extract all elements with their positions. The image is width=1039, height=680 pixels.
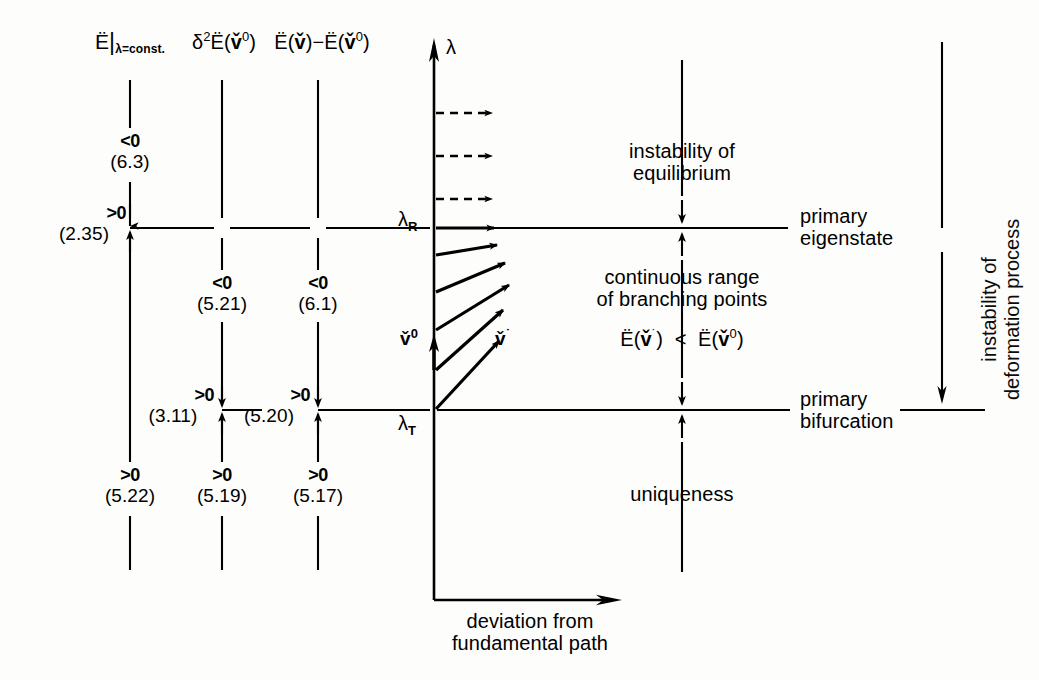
column2-below-T-value: >0 (5.19): [197, 465, 247, 506]
column2-mid-value: <0 (5.21): [197, 273, 247, 314]
column2-at-T-value: >0 (3.11): [128, 385, 218, 426]
column1-above-R-ref: (6.3): [110, 151, 150, 172]
lambda-axis: [429, 38, 439, 600]
instability-line2: equilibrium: [629, 162, 735, 184]
primary-bifurcation-line1: primary: [800, 388, 893, 410]
continuous-range-line2: of branching points: [597, 288, 768, 310]
deformation-process-line1: instability of: [978, 219, 1001, 400]
column2-header: δ2Ë(v̌0): [192, 30, 256, 53]
column1-above-R-sign: <0: [110, 131, 150, 151]
column3-mid-value: <0 (6.1): [298, 273, 338, 314]
lambda-axis-label: λ: [446, 36, 456, 58]
column3-below-T-ref: (5.17): [293, 485, 343, 506]
column3-at-T-sign: >0: [224, 385, 314, 405]
column1-below-T-sign: >0: [105, 465, 155, 485]
column3-mid-sign: <0: [298, 273, 338, 293]
v-dot-label: v̌˙: [495, 327, 510, 350]
bifurcation-diagram: Ë|λ=const. δ2Ë(v̌0) Ë(v̌)−Ë(v̌0) <0 …: [0, 0, 1039, 680]
column2-mid-sign: <0: [197, 273, 247, 293]
primary-bifurcation-line2: bifurcation: [800, 410, 893, 432]
column1-below-T-ref: (5.22): [105, 485, 155, 506]
instability-of-deformation-process-label: instability of deformation process: [978, 219, 1024, 400]
column1-header: Ë|λ=const.: [95, 30, 165, 56]
column2-at-T-sign: >0: [128, 385, 218, 405]
column1-below-T-value: >0 (5.22): [105, 465, 155, 506]
uniqueness-label: uniqueness: [630, 483, 733, 505]
deviation-caption-line2: fundamental path: [452, 632, 608, 654]
diagram-vector-layer: [0, 0, 1039, 680]
v-zero-superscript: 0: [411, 326, 418, 341]
instability-line1: instability of: [629, 140, 735, 162]
lambda-R-symbol: λ: [398, 208, 408, 230]
lambda-R-subscript: R: [408, 219, 418, 234]
primary-eigenstate-line1: primary: [800, 205, 893, 227]
deformation-process-line2: deformation process: [1001, 219, 1024, 400]
column3-at-T-value: >0 (5.20): [224, 385, 314, 426]
v-zero-label: v̌0: [400, 327, 418, 350]
v-dot-symbol: v̌: [495, 328, 506, 349]
primary-bifurcation-label: primary bifurcation: [800, 388, 893, 433]
primary-eigenstate-line2: eigenstate: [800, 227, 893, 249]
column2-at-T-ref: (3.11): [128, 405, 218, 426]
column1-at-R-ref: (2.35): [36, 223, 132, 244]
lambda-T-tick-label: λT: [398, 412, 416, 439]
v-dot-superscript: ˙: [506, 326, 510, 341]
column2-mid-ref: (5.21): [197, 293, 247, 314]
column1-above-R-value: <0 (6.3): [110, 131, 150, 172]
column1-at-R-value: >0 (2.35): [36, 203, 132, 244]
column2-below-T-ref: (5.19): [197, 485, 247, 506]
column3-below-T-sign: >0: [293, 465, 343, 485]
deviation-axis-caption: deviation from fundamental path: [452, 610, 608, 655]
column1-at-R-sign: >0: [36, 203, 132, 223]
deviation-caption-line1: deviation from: [452, 610, 608, 632]
lambda-T-symbol: λ: [398, 412, 408, 434]
v-zero-symbol: v̌: [400, 328, 411, 349]
column3-header: Ë(v̌)−Ë(v̌0): [274, 30, 370, 53]
energy-inequality: Ë(v̌˙) < Ë(v̌0): [620, 327, 743, 350]
instability-of-equilibrium-label: instability of equilibrium: [629, 140, 735, 185]
lambda-R-tick-label: λR: [398, 208, 418, 235]
v-zero-axis-arrow: [429, 334, 439, 370]
deformation-process-bracket: [937, 42, 946, 404]
column3-below-T-value: >0 (5.17): [293, 465, 343, 506]
continuous-range-line1: continuous range: [597, 266, 768, 288]
lambda-T-subscript: T: [408, 423, 416, 438]
continuous-range-label: continuous range of branching points: [597, 266, 768, 311]
column3-at-T-ref: (5.20): [224, 405, 314, 426]
column3-mid-ref: (6.1): [298, 293, 338, 314]
dashed-instability-arrows: [436, 113, 492, 199]
primary-eigenstate-label: primary eigenstate: [800, 205, 893, 250]
deviation-axis: [434, 595, 622, 605]
column2-below-T-sign: >0: [197, 465, 247, 485]
branching-direction-arrows: [436, 228, 509, 409]
